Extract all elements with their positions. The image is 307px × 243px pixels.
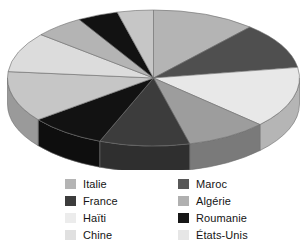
legend-column-right: Maroc Algérie Roumanie États-Unis <box>178 176 298 243</box>
legend-swatch-etats-unis <box>178 230 189 240</box>
legend-item-algerie[interactable]: Algérie <box>178 193 298 209</box>
pie-chart-figure: Italie France Haïti Chine Maroc Al <box>0 0 307 243</box>
legend-item-france[interactable]: France <box>65 193 170 209</box>
legend-swatch-italie <box>65 179 76 189</box>
legend-label-haiti: Haïti <box>83 212 106 224</box>
legend-item-haiti[interactable]: Haïti <box>65 210 170 226</box>
legend-swatch-haiti <box>65 213 76 223</box>
pie-chart-canvas <box>0 0 307 170</box>
legend-item-chine[interactable]: Chine <box>65 227 170 243</box>
legend-label-roumanie: Roumanie <box>196 212 247 224</box>
legend-swatch-france <box>65 196 76 206</box>
pie-chart-svg <box>0 0 307 170</box>
legend-swatch-maroc <box>178 179 189 189</box>
legend-item-italie[interactable]: Italie <box>65 176 170 192</box>
pie-top-face <box>7 10 299 146</box>
legend-label-chine: Chine <box>83 229 112 241</box>
legend-label-algerie: Algérie <box>196 195 231 207</box>
legend-label-italie: Italie <box>83 178 107 190</box>
legend-label-etats-unis: États-Unis <box>196 229 248 241</box>
legend-swatch-algerie <box>178 196 189 206</box>
legend-item-etats-unis[interactable]: États-Unis <box>178 227 298 243</box>
legend-swatch-chine <box>65 230 76 240</box>
legend-column-left: Italie France Haïti Chine <box>65 176 170 243</box>
legend-label-maroc: Maroc <box>196 178 227 190</box>
legend-item-roumanie[interactable]: Roumanie <box>178 210 298 226</box>
legend-item-maroc[interactable]: Maroc <box>178 176 298 192</box>
legend-swatch-roumanie <box>178 213 189 223</box>
chart-legend: Italie France Haïti Chine Maroc Al <box>0 176 307 243</box>
legend-label-france: France <box>83 195 118 207</box>
